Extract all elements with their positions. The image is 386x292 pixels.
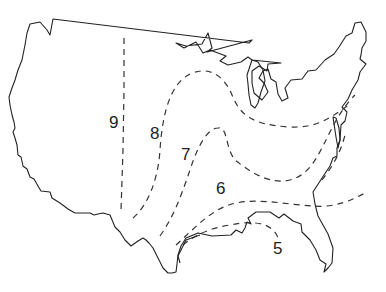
zone-8-boundary: [133, 71, 350, 218]
zone-label-6: 6: [216, 180, 225, 197]
zone-9-boundary: [121, 38, 124, 210]
zone-6-boundary: [176, 193, 365, 245]
zone-label-9: 9: [109, 114, 118, 131]
map-canvas: [0, 0, 386, 292]
zone-label-7: 7: [181, 146, 190, 163]
zone-7-boundary: [160, 95, 355, 236]
gulf-coast-detail: [178, 235, 200, 263]
michigan-peninsula: [247, 60, 265, 108]
chesapeake-bay: [333, 117, 340, 148]
us-zone-map: 9 8 7 6 5: [0, 0, 386, 292]
zone-label-8: 8: [150, 125, 159, 142]
zone-label-5: 5: [273, 240, 282, 257]
